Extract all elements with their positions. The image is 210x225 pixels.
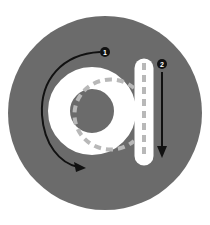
stroke-1-number: 1 bbox=[103, 49, 107, 56]
background-circle bbox=[8, 16, 202, 210]
stroke-2-badge: 2 bbox=[157, 59, 167, 69]
stroke-1-badge: 1 bbox=[100, 47, 110, 57]
letter-a-tracing-graphic: 1 2 bbox=[0, 0, 210, 225]
stroke-2-number: 2 bbox=[160, 61, 164, 68]
letter-tracing-card: 1 2 bbox=[0, 0, 210, 225]
